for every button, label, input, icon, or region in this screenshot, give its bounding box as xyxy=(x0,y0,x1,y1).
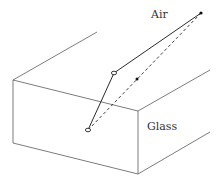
front-top-edge xyxy=(13,80,138,111)
refracted-ray-in-glass xyxy=(88,73,114,130)
observer-point xyxy=(199,11,202,14)
glass-slab xyxy=(13,32,210,174)
front-bottom-edge xyxy=(13,143,138,174)
apparent-image-point xyxy=(136,78,139,81)
object-marker xyxy=(85,128,90,132)
refraction-diagram xyxy=(0,0,221,185)
incident-ray-in-air xyxy=(114,13,201,73)
surface-entry-marker xyxy=(111,71,116,75)
glass-label: Glass xyxy=(147,121,177,132)
rays xyxy=(88,13,201,130)
back-right-bottom-edge xyxy=(138,132,210,174)
back-left-top-edge xyxy=(13,32,97,80)
back-right-top-edge xyxy=(138,70,210,111)
air-label: Air xyxy=(151,9,168,20)
apparent-ray-dashed xyxy=(88,13,201,130)
